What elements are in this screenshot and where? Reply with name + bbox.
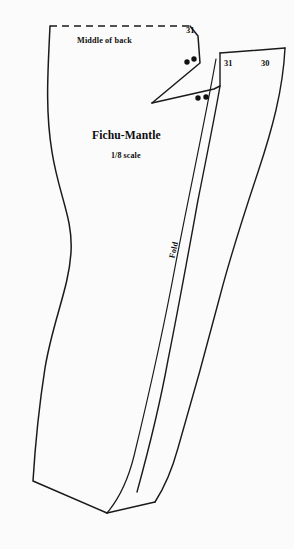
pattern-scale-note: 1/8 scale <box>111 152 141 160</box>
label-middle-of-back: Middle of back <box>77 37 132 45</box>
notch-dot <box>184 59 189 64</box>
right-panel-inner-edge <box>137 53 220 492</box>
notch-dot <box>191 56 196 61</box>
notch-dots-lower <box>195 94 208 100</box>
piece-number-right-panel-outer: 30 <box>261 60 269 68</box>
notch-dots-upper <box>184 56 196 64</box>
fold-seam-line <box>107 59 216 513</box>
pattern-drawing <box>0 0 294 549</box>
right-panel-top-edge <box>220 48 285 53</box>
left-panel-top-right-edge <box>152 26 200 103</box>
left-panel-outline <box>33 26 107 513</box>
pattern-diagram-page: Middle of back Fichu-Mantle 1/8 scale 31… <box>0 0 294 549</box>
right-panel-outer-edge <box>155 48 285 502</box>
pattern-title: Fichu-Mantle <box>92 130 161 142</box>
piece-number-right-panel-inner: 31 <box>224 60 232 68</box>
notch-dot <box>203 94 208 99</box>
piece-number-left-panel: 31 <box>186 27 194 35</box>
notch-dot <box>195 95 200 100</box>
